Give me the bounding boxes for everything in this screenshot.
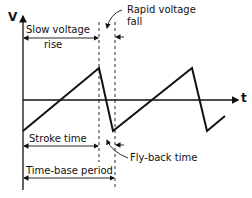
rapid-fall-label-line2: fall <box>127 17 142 27</box>
flyback-time-label: Fly-back time <box>130 153 197 163</box>
flyback-curved-arrow <box>107 140 128 158</box>
slow-rise-label-line1: Slow voltage <box>26 25 90 35</box>
stroke-time-label: Stroke time <box>29 134 87 144</box>
timebase-period-label: Time-base period <box>26 166 113 176</box>
x-axis-label: t <box>241 93 247 103</box>
slow-rise-label-line2: rise <box>44 40 62 50</box>
y-axis-label: V <box>8 12 17 22</box>
rapid-fall-curved-arrow <box>107 10 122 28</box>
rapid-fall-label-line1: Rapid voltage <box>127 5 196 15</box>
